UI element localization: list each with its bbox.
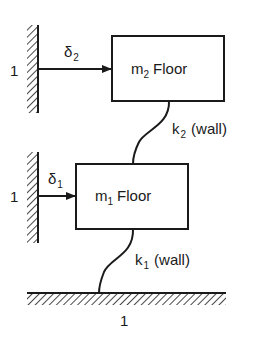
upper-wall-support [27,25,38,113]
lower-floor-label: m1Floor [95,187,151,207]
lower-wall-hatching [27,152,38,243]
delta-2-label: δ2 [64,43,79,63]
spring-k2-wall [133,101,169,164]
spring-k1-wall [99,229,133,293]
lower-wall-support [27,152,38,243]
lower-wall-label: 1 [10,188,18,205]
ground-support [27,293,226,305]
ground-hatching [27,293,226,305]
delta-1-label: δ1 [48,170,63,190]
ground-label: 1 [120,312,128,329]
upper-wall-label: 1 [10,62,18,79]
structural-model-diagram: 1 δ2 m2Floor k2(wall) 1 δ1 m1Floor k1(wa… [0,0,259,340]
spring-k2-label: k2(wall) [172,120,227,140]
spring-k1-label: k1(wall) [135,251,190,271]
upper-floor-label: m2Floor [131,60,187,80]
upper-wall-hatching [27,25,38,113]
